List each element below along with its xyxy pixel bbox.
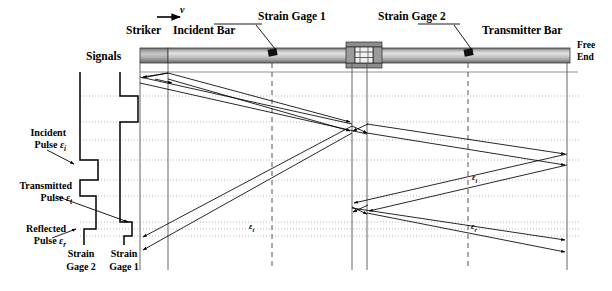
specimen-fixture (346, 42, 382, 68)
transmitted-pulse-label-line1: Transmitted (0, 181, 72, 192)
ray-incident-1 (168, 73, 350, 122)
free-end-label-line2: End (577, 52, 594, 63)
reflected-pulse-label-line1: Reflected (0, 224, 66, 235)
velocity-label: v (180, 5, 184, 16)
wave-label-epsilon-r: εr (471, 222, 477, 233)
transmitter-bar-label: Transmitter Bar (482, 24, 562, 36)
ray-incident-env-1 (140, 77, 352, 124)
reflected-pulse-sub: r (63, 241, 66, 249)
strain-gage-1-label: Strain Gage 1 (258, 10, 326, 22)
wave-label-epsilon-t: εt (249, 222, 254, 233)
figure-canvas: v Striker Incident Bar Strain Gage 1 Str… (0, 0, 612, 291)
ray-second-pass-2 (367, 213, 565, 252)
wave-rays (140, 73, 567, 252)
ray-striker-edge (142, 73, 168, 78)
transmitted-pulse-word: Pulse (41, 192, 64, 203)
incident-pulse-label-line1: Incident (0, 128, 66, 139)
trace-caption-gage2-line1: Strain (58, 249, 104, 260)
station-lines (140, 63, 567, 270)
ray-transmitted-1 (367, 124, 565, 154)
trace-caption-gage1-line2: Gage 1 (101, 262, 147, 273)
ray-incident-env-2 (140, 83, 367, 134)
free-end-label-line1: Free (577, 40, 595, 51)
incident-pulse-label-line2: Pulse εi (0, 140, 66, 154)
striker-bar (140, 48, 168, 63)
trace-caption-gage1-line1: Strain (101, 249, 147, 260)
incident-pulse-sub: i (64, 145, 66, 153)
transmitted-pulse-sub: t (70, 198, 72, 206)
reflected-pulse-label-line2: Pulse εr (0, 236, 66, 250)
trace-caption-gage2-line2: Gage 2 (58, 262, 104, 273)
strain-gage-2-label: Strain Gage 2 (378, 10, 446, 22)
epsilon-r-sub: r (475, 227, 477, 233)
incident-bar (168, 48, 352, 63)
signals-heading: Signals (86, 50, 121, 62)
incident-bar-label: Incident Bar (173, 24, 235, 36)
wave-label-epsilon-i: εi (472, 173, 477, 184)
reflected-pulse-word: Pulse (34, 235, 57, 246)
striker-label: Striker (126, 24, 161, 36)
ray-reflected-2 (143, 133, 352, 250)
trace-strain-gage-1 (120, 72, 138, 245)
epsilon-i-sub: i (476, 178, 478, 184)
bar-assembly (140, 42, 570, 68)
incident-pulse-word: Pulse (35, 139, 58, 150)
epsilon-t-sub: t (253, 227, 255, 233)
transmitted-pulse-label-line2: Pulse εt (0, 193, 72, 207)
ray-transmitted-2 (367, 133, 565, 165)
ray-freeend-return-1 (354, 154, 567, 203)
trace-strain-gage-2 (80, 72, 98, 245)
signal-traces (80, 72, 138, 245)
ray-second-pass-1 (352, 208, 565, 240)
ray-incident-2 (168, 79, 350, 131)
ray-reflected-1 (143, 126, 352, 237)
